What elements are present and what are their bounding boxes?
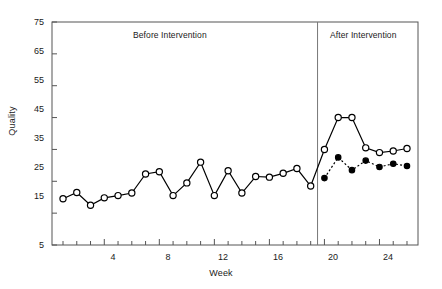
data-point-s1-w21 [336, 155, 341, 160]
axis-frame [52, 22, 418, 245]
data-point-s1-w24 [377, 164, 382, 169]
data-point-s1-w23 [363, 158, 368, 163]
data-point-s0-w18 [294, 165, 300, 171]
data-point-s0-w6 [129, 190, 135, 196]
data-series-group [60, 114, 410, 208]
data-point-s1-w26 [404, 163, 409, 168]
data-point-s0-w4 [101, 195, 107, 201]
data-point-s0-w21 [335, 114, 341, 120]
plot-area [0, 0, 442, 289]
data-point-s0-w22 [349, 114, 355, 120]
data-point-s0-w1 [60, 196, 66, 202]
data-point-s0-w8 [156, 169, 162, 175]
data-point-s0-w12 [211, 193, 217, 199]
quality-time-series-chart: Quality Week 75 65 55 45 35 25 15 5 4 8 … [0, 0, 442, 289]
data-point-s0-w26 [404, 145, 410, 151]
data-point-s0-w10 [184, 180, 190, 186]
data-point-s0-w19 [308, 183, 314, 189]
series-line-0 [63, 118, 407, 206]
data-point-s0-w5 [115, 193, 121, 199]
data-point-s0-w13 [225, 168, 231, 174]
data-point-s0-w17 [280, 170, 286, 176]
data-point-s1-w25 [391, 161, 396, 166]
data-point-s0-w9 [170, 193, 176, 199]
data-point-s1-w20 [322, 175, 327, 180]
data-point-s0-w23 [363, 145, 369, 151]
data-point-s0-w3 [87, 202, 93, 208]
plot-frame [52, 22, 418, 245]
data-point-s0-w15 [253, 173, 259, 179]
data-point-s0-w24 [376, 150, 382, 156]
axis-ticks [52, 22, 407, 245]
data-point-s0-w7 [142, 171, 148, 177]
data-point-s1-w22 [349, 167, 354, 172]
data-point-s0-w11 [198, 159, 204, 165]
data-point-s0-w14 [239, 190, 245, 196]
data-point-s0-w20 [321, 146, 327, 152]
data-point-s0-w16 [266, 174, 272, 180]
data-point-s0-w2 [74, 189, 80, 195]
data-point-s0-w25 [390, 148, 396, 154]
